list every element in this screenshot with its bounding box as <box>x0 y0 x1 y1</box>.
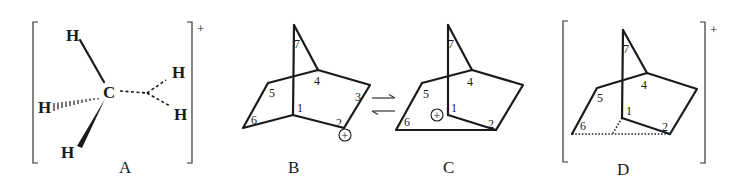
dashed-bond-h-lower <box>147 93 170 106</box>
bond-c-h-top <box>80 40 104 82</box>
num-7: 7 <box>294 37 300 51</box>
atom-h-right-lower: H <box>174 105 187 124</box>
num-4: 4 <box>314 74 320 88</box>
right-bracket-a <box>187 22 192 163</box>
atom-h-bottom: H <box>61 143 74 162</box>
structure-b: 7 4 3 2 1 5 6 + B <box>243 25 370 177</box>
structure-d: + 7 4 2 1 5 6 D <box>563 21 717 179</box>
left-bracket-a <box>33 22 38 163</box>
charge-plus-d: + <box>710 22 717 37</box>
equilibrium-arrows <box>372 95 395 115</box>
num-5: 5 <box>269 86 275 100</box>
structure-c: 7 4 2 1 5 6 + C <box>396 25 523 177</box>
label-a: A <box>119 158 132 177</box>
label-c: C <box>443 158 454 177</box>
num-1: 1 <box>297 101 303 115</box>
left-bracket-d <box>563 21 568 162</box>
num-3: 3 <box>355 90 361 104</box>
atom-h-right-upper: H <box>172 63 185 82</box>
num-4: 4 <box>467 75 473 89</box>
atom-h-left: H <box>38 98 51 117</box>
dashed-bond-h-upper <box>147 80 166 93</box>
charge-plus-b: + <box>342 129 349 143</box>
dashed-bond-c-center <box>120 91 147 93</box>
num-6: 6 <box>251 113 257 127</box>
label-b: B <box>288 158 299 177</box>
num-6: 6 <box>404 115 410 129</box>
num-4: 4 <box>641 78 647 92</box>
num-5: 5 <box>597 91 603 105</box>
charge-plus-c: + <box>434 109 441 123</box>
chemistry-figure: + H C H H H H A <box>0 0 738 185</box>
atom-h-top: H <box>66 26 79 45</box>
ring-b <box>243 70 370 128</box>
num-5: 5 <box>423 87 429 101</box>
label-d: D <box>617 160 629 179</box>
num-2: 2 <box>662 120 668 134</box>
structure-a: + H C H H H H A <box>33 21 204 177</box>
ring-d <box>572 73 697 134</box>
hashed-bond-left <box>54 98 98 111</box>
charge-plus-a: + <box>197 21 204 36</box>
atom-c: C <box>103 83 115 102</box>
wedge-bond-bottom <box>77 99 105 148</box>
num-7: 7 <box>623 42 629 56</box>
partial-bond-1-center <box>613 118 622 133</box>
num-7: 7 <box>448 37 454 51</box>
num-6: 6 <box>580 119 586 133</box>
num-1: 1 <box>626 104 632 118</box>
num-1: 1 <box>451 101 457 115</box>
right-bracket-d <box>700 22 705 163</box>
ring-c <box>396 70 523 130</box>
num-2: 2 <box>488 117 494 131</box>
